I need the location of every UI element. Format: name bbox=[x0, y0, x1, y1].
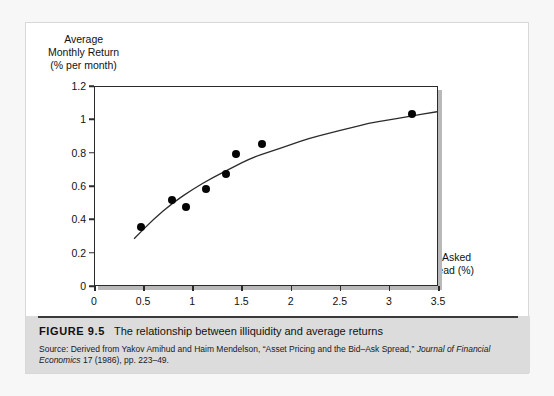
y-tick-label: 1.2 bbox=[46, 80, 86, 92]
y-axis-title: Average Monthly Return (% per month) bbox=[48, 33, 119, 72]
data-point bbox=[137, 223, 145, 231]
data-point bbox=[202, 185, 210, 193]
x-tick-label: 0.5 bbox=[123, 295, 163, 307]
chart-region: Average Monthly Return (% per month) Bid… bbox=[26, 23, 530, 318]
x-tick-label: 3.5 bbox=[418, 295, 458, 307]
plot-area bbox=[94, 86, 438, 286]
data-point bbox=[182, 203, 190, 211]
figure-caption: FIGURE 9.5The relationship between illiq… bbox=[39, 325, 383, 337]
figure-source: Source: Derived from Yakov Amihud and Ha… bbox=[39, 344, 513, 365]
data-point bbox=[168, 196, 176, 204]
y-tick-label: 0 bbox=[46, 280, 86, 292]
caption-band: FIGURE 9.5The relationship between illiq… bbox=[26, 316, 530, 373]
data-point bbox=[222, 170, 230, 178]
figure-panel: Average Monthly Return (% per month) Bid… bbox=[25, 22, 529, 374]
x-tick-mark bbox=[241, 286, 243, 291]
figure-number: FIGURE 9.5 bbox=[39, 325, 105, 337]
figure-screenshot: Average Monthly Return (% per month) Bid… bbox=[0, 0, 554, 396]
data-point bbox=[408, 110, 416, 118]
x-tick-label: 3 bbox=[369, 295, 409, 307]
x-tick-label: 0 bbox=[74, 295, 114, 307]
data-point bbox=[258, 140, 266, 148]
x-tick-label: 1 bbox=[172, 295, 212, 307]
source-text-tail: 17 (1986), pp. 223–49. bbox=[81, 355, 169, 365]
x-tick-mark bbox=[291, 286, 293, 291]
figure-title: The relationship between illiquidity and… bbox=[114, 325, 383, 337]
x-tick-mark bbox=[389, 286, 391, 291]
x-tick-label: 2.5 bbox=[320, 295, 360, 307]
x-tick-mark bbox=[340, 286, 342, 291]
y-tick-label: 0.8 bbox=[46, 147, 86, 159]
data-point bbox=[232, 150, 240, 158]
x-tick-label: 1.5 bbox=[221, 295, 261, 307]
y-tick-label: 1 bbox=[46, 113, 86, 125]
x-tick-mark bbox=[192, 286, 194, 291]
x-tick-mark bbox=[94, 286, 96, 291]
caption-rule bbox=[38, 316, 518, 318]
y-tick-label: 0.6 bbox=[46, 180, 86, 192]
x-tick-mark bbox=[143, 286, 145, 291]
x-tick-label: 2 bbox=[271, 295, 311, 307]
data-points-layer bbox=[95, 87, 437, 285]
y-tick-label: 0.4 bbox=[46, 213, 86, 225]
y-tick-label: 0.2 bbox=[46, 247, 86, 259]
source-text-lead: Source: Derived from Yakov Amihud and Ha… bbox=[39, 344, 417, 354]
x-tick-mark bbox=[438, 286, 440, 291]
